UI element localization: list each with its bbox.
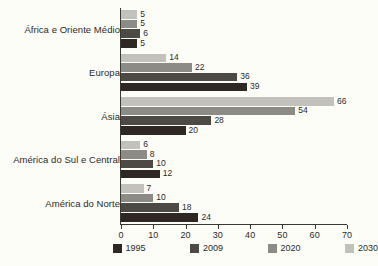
bar-value-label: 36 — [237, 71, 249, 81]
bar-row: 10 — [121, 160, 347, 169]
bar-group-wrapper: 5565 — [121, 10, 347, 49]
category-label: América do Sul e Central — [2, 154, 120, 165]
bar-value-label: 14 — [166, 52, 178, 62]
x-axis-tick-label: 10 — [148, 230, 158, 240]
bar-value-label: 20 — [186, 125, 198, 135]
legend-swatch-2009 — [190, 244, 199, 253]
bar-2009[interactable] — [121, 203, 179, 212]
legend-swatch-1995 — [113, 244, 122, 253]
bar-row: 5 — [121, 10, 347, 19]
bar-row: 66 — [121, 97, 347, 106]
legend-label: 2020 — [281, 243, 301, 253]
x-axis-tick — [250, 225, 251, 229]
x-axis-tick — [347, 225, 348, 229]
bar-row: 10 — [121, 194, 347, 203]
bar-row: 6 — [121, 29, 347, 38]
bar-2020[interactable] — [121, 20, 137, 29]
bar-value-label: 8 — [147, 149, 155, 159]
bar-value-label: 28 — [211, 115, 223, 125]
legend-item-2020[interactable]: 2020 — [268, 243, 301, 253]
x-axis-tick — [218, 225, 219, 229]
bar-value-label: 10 — [153, 192, 165, 202]
bar-2030[interactable] — [121, 141, 140, 150]
bar-row: 5 — [121, 39, 347, 48]
x-axis-tick-label: 30 — [213, 230, 223, 240]
bar-row: 24 — [121, 213, 347, 222]
legend-item-1995[interactable]: 1995 — [113, 243, 146, 253]
bar-value-label: 5 — [137, 18, 145, 28]
bar-row: 18 — [121, 203, 347, 212]
bar-value-label: 12 — [160, 168, 172, 178]
legend-swatch-2030 — [345, 244, 354, 253]
x-axis-tick-label: 60 — [310, 230, 320, 240]
bar-row: 12 — [121, 170, 347, 179]
bar-2030[interactable] — [121, 10, 137, 19]
x-axis-tick — [186, 225, 187, 229]
legend-label: 2030 — [358, 243, 378, 253]
bar-row: 20 — [121, 126, 347, 135]
bar-2020[interactable] — [121, 194, 153, 203]
bar-1995[interactable] — [121, 39, 137, 48]
bar-1995[interactable] — [121, 170, 160, 179]
legend-item-2030[interactable]: 2030 — [345, 243, 378, 253]
x-axis-tick — [282, 225, 283, 229]
category-label: América do Norte — [2, 198, 120, 209]
bar-value-label: 66 — [334, 96, 346, 106]
bar-row: 54 — [121, 107, 347, 116]
bar-group-wrapper: 66542820 — [121, 97, 347, 136]
bar-value-label: 5 — [137, 9, 145, 19]
bar-value-label: 6 — [140, 139, 148, 149]
chart-legend: 1995200920202030 — [110, 243, 360, 257]
bar-value-label: 10 — [153, 158, 165, 168]
bar-value-label: 22 — [192, 62, 204, 72]
legend-swatch-2020 — [268, 244, 277, 253]
bar-row: 36 — [121, 73, 347, 82]
bar-row: 39 — [121, 83, 347, 92]
bar-2030[interactable] — [121, 54, 166, 63]
bar-value-label: 24 — [198, 212, 210, 222]
x-axis-tick — [153, 225, 154, 229]
bar-1995[interactable] — [121, 213, 198, 222]
bar-group-wrapper: 14223639 — [121, 54, 347, 93]
bar-1995[interactable] — [121, 83, 247, 92]
bar-row: 22 — [121, 63, 347, 72]
bar-row: 28 — [121, 116, 347, 125]
bar-value-label: 54 — [295, 105, 307, 115]
category-label: Ásia — [2, 111, 120, 122]
bar-group-wrapper: 7101824 — [121, 184, 347, 223]
bar-group-wrapper: 681012 — [121, 141, 347, 180]
category-label: África e Oriente Médio — [2, 24, 120, 35]
bar-2020[interactable] — [121, 150, 147, 159]
legend-label: 1995 — [126, 243, 146, 253]
bar-1995[interactable] — [121, 126, 186, 135]
x-axis-tick-label: 50 — [277, 230, 287, 240]
bar-2009[interactable] — [121, 73, 237, 82]
x-axis-tick — [121, 225, 122, 229]
bar-row: 6 — [121, 141, 347, 150]
legend-item-2009[interactable]: 2009 — [190, 243, 223, 253]
x-axis-tick-label: 20 — [180, 230, 190, 240]
bar-value-label: 6 — [140, 28, 148, 38]
x-axis-tick — [315, 225, 316, 229]
bar-row: 5 — [121, 20, 347, 29]
bar-2009[interactable] — [121, 160, 153, 169]
bar-value-label: 5 — [137, 38, 145, 48]
bar-value-label: 7 — [144, 183, 152, 193]
category-label: Europa — [2, 67, 120, 78]
bar-2020[interactable] — [121, 107, 295, 116]
x-axis-tick-label: 40 — [245, 230, 255, 240]
x-axis-tick-label: 0 — [118, 230, 123, 240]
x-axis-tick-label: 70 — [342, 230, 352, 240]
bar-row: 14 — [121, 54, 347, 63]
bar-value-label: 39 — [247, 81, 259, 91]
bar-2030[interactable] — [121, 184, 144, 193]
legend-label: 2009 — [203, 243, 223, 253]
bar-value-label: 18 — [179, 202, 191, 212]
bar-2020[interactable] — [121, 63, 192, 72]
